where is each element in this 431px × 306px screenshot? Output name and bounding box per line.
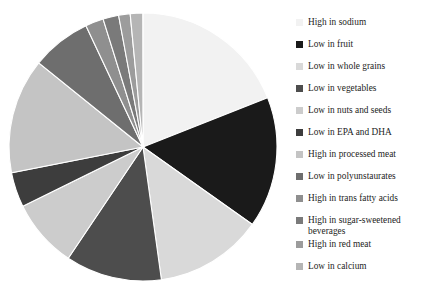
legend-item[interactable]: Low in whole grains <box>296 61 385 72</box>
legend-item[interactable]: Low in calcium <box>296 261 367 272</box>
legend-swatch-icon <box>296 129 303 136</box>
legend-item[interactable]: Low in polyunstaurates <box>296 171 396 182</box>
legend-swatch-icon <box>296 263 303 270</box>
legend-item-label: Low in fruit <box>308 39 353 50</box>
legend-item-label: High in sugar-sweetened beverages <box>308 215 401 236</box>
legend-item-label: High in sodium <box>308 17 366 28</box>
legend: High in sodiumLow in fruitLow in whole g… <box>296 13 431 298</box>
legend-item[interactable]: Low in EPA and DHA <box>296 127 392 138</box>
legend-item[interactable]: High in sodium <box>296 17 366 28</box>
legend-item[interactable]: High in processed meat <box>296 149 396 160</box>
legend-item-label: High in red meat <box>308 239 371 250</box>
legend-swatch-icon <box>296 19 303 26</box>
legend-swatch-icon <box>296 41 303 48</box>
legend-item-label: Low in vegetables <box>308 83 377 94</box>
legend-swatch-icon <box>296 241 303 248</box>
legend-item-label: Low in nuts and seeds <box>308 105 391 116</box>
legend-item-label: High in trans fatty acids <box>308 193 398 204</box>
pie-chart-figure: High in sodiumLow in fruitLow in whole g… <box>0 0 431 306</box>
legend-item-label: High in processed meat <box>308 149 396 160</box>
legend-swatch-icon <box>296 85 303 92</box>
legend-swatch-icon <box>296 217 303 224</box>
legend-item[interactable]: High in trans fatty acids <box>296 193 398 204</box>
legend-item[interactable]: High in sugar-sweetened beverages <box>296 215 401 236</box>
pie-plot-area <box>0 0 290 306</box>
legend-item-label: Low in polyunstaurates <box>308 171 396 182</box>
legend-swatch-icon <box>296 63 303 70</box>
legend-item-label: Low in EPA and DHA <box>308 127 392 138</box>
pie-slice-group <box>9 13 277 281</box>
legend-swatch-icon <box>296 151 303 158</box>
legend-swatch-icon <box>296 173 303 180</box>
legend-swatch-icon <box>296 195 303 202</box>
legend-item[interactable]: Low in nuts and seeds <box>296 105 391 116</box>
legend-item[interactable]: Low in fruit <box>296 39 353 50</box>
legend-item[interactable]: High in red meat <box>296 239 371 250</box>
pie-svg <box>0 0 290 306</box>
legend-item-label: Low in whole grains <box>308 61 385 72</box>
legend-item[interactable]: Low in vegetables <box>296 83 377 94</box>
legend-item-label: Low in calcium <box>308 261 367 272</box>
legend-swatch-icon <box>296 107 303 114</box>
